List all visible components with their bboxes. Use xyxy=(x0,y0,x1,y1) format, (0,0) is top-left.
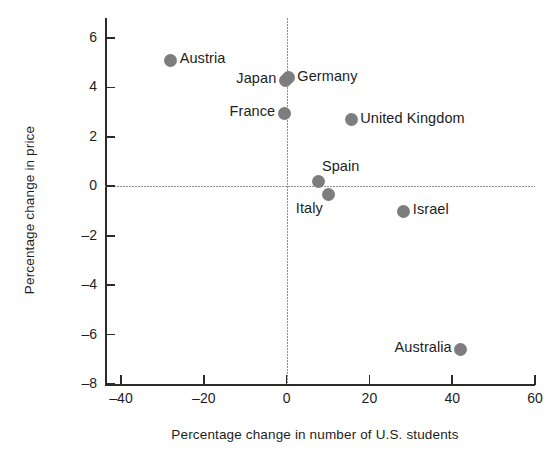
y-tick-5 xyxy=(106,136,115,138)
x-tick-label-5: 60 xyxy=(505,390,560,406)
y-tick-label-4: 0 xyxy=(57,177,97,193)
data-point-label: France xyxy=(230,103,276,119)
y-tick-label-6: 4 xyxy=(57,78,97,94)
data-point xyxy=(279,74,292,87)
x-tick-label-0: –40 xyxy=(91,390,151,406)
y-tick-6 xyxy=(106,87,115,89)
data-point-label: United Kingdom xyxy=(360,110,465,126)
y-tick-3 xyxy=(106,235,115,237)
x-tick-label-1: –20 xyxy=(174,390,234,406)
plot-area: –8–6–4–20246 –40–200204060 AustriaGerman… xyxy=(105,18,535,386)
data-point-label: Israel xyxy=(413,201,449,217)
x-tick-0 xyxy=(120,375,122,385)
y-axis-spine xyxy=(105,18,107,386)
data-point-label: Japan xyxy=(236,70,276,86)
x-tick-label-2: 0 xyxy=(257,390,317,406)
data-point-label: Spain xyxy=(322,158,360,174)
data-point-label: Australia xyxy=(394,339,451,355)
y-tick-label-5: 2 xyxy=(57,128,97,144)
data-point xyxy=(278,107,291,120)
y-tick-label-0: –8 xyxy=(57,375,97,391)
y-axis-title: Percentage change in price xyxy=(22,20,44,400)
x-tick-3 xyxy=(369,375,371,385)
y-tick-7 xyxy=(106,37,115,39)
data-point xyxy=(164,54,177,67)
y-tick-label-3: –2 xyxy=(57,227,97,243)
data-point xyxy=(345,113,358,126)
y-tick-1 xyxy=(106,334,115,336)
x-tick-label-3: 20 xyxy=(339,390,399,406)
data-point-label: Austria xyxy=(180,50,226,66)
x-tick-4 xyxy=(451,375,453,385)
x-axis-title: Percentage change in number of U.S. stud… xyxy=(100,427,530,442)
x-tick-1 xyxy=(203,375,205,385)
x-tick-label-4: 40 xyxy=(422,390,482,406)
y-tick-4 xyxy=(106,185,115,187)
x-tick-2 xyxy=(286,375,288,385)
scatter-plot-figure: Percentage change in price Percentage ch… xyxy=(0,0,560,455)
data-point xyxy=(397,205,410,218)
x-axis-spine xyxy=(105,384,535,386)
y-tick-label-1: –6 xyxy=(57,326,97,342)
y-tick-0 xyxy=(106,383,115,385)
data-point xyxy=(322,188,335,201)
y-tick-2 xyxy=(106,284,115,286)
data-point-label: Germany xyxy=(297,68,357,84)
data-point xyxy=(454,343,467,356)
x-tick-5 xyxy=(534,375,536,385)
y-tick-label-2: –4 xyxy=(57,276,97,292)
data-point-label: Italy xyxy=(296,200,323,216)
y-tick-label-7: 6 xyxy=(57,29,97,45)
